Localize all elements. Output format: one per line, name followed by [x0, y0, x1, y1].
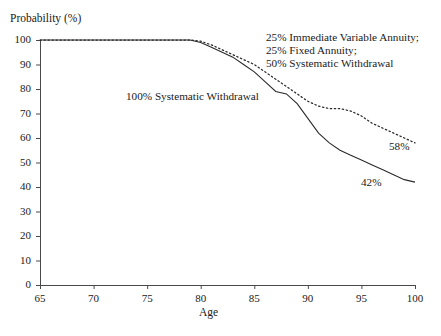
- y-axis-tick-label: 80: [5, 82, 31, 94]
- x-axis-tick-label: 70: [79, 292, 109, 304]
- y-axis-tick-label: 30: [5, 205, 31, 217]
- chart-figure: . . . . . . . . Probability (%) Age 25% …: [0, 0, 441, 336]
- y-axis-tick-label: 40: [5, 180, 31, 192]
- y-axis-tick-marks: [36, 41, 40, 286]
- y-axis-tick-label: 50: [5, 156, 31, 168]
- chart-canvas: [0, 0, 441, 336]
- x-axis-tick-label: 90: [293, 292, 323, 304]
- x-axis-tick-label: 75: [132, 292, 162, 304]
- data-series-group: [40, 40, 415, 182]
- x-axis-tick-label: 65: [25, 292, 55, 304]
- y-axis-tick-label: 100: [5, 33, 31, 45]
- y-axis-tick-label: 20: [5, 229, 31, 241]
- x-axis-tick-label: 80: [186, 292, 216, 304]
- y-axis-tick-label: 70: [5, 107, 31, 119]
- series-line-annuity-mix: [40, 40, 415, 143]
- x-axis-tick-label: 95: [346, 292, 376, 304]
- y-axis-tick-label: 0: [5, 278, 31, 290]
- x-axis-tick-label: 85: [239, 292, 269, 304]
- y-axis-tick-label: 60: [5, 131, 31, 143]
- series-line-systematic-withdrawal: [40, 40, 415, 182]
- x-axis-tick-label: 100: [400, 292, 430, 304]
- y-axis-tick-label: 10: [5, 254, 31, 266]
- axes: [40, 40, 415, 286]
- y-axis-tick-label: 90: [5, 58, 31, 70]
